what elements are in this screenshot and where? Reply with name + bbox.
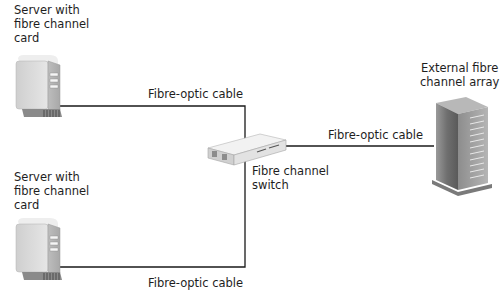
cable-label-switch-array: Fibre-optic cable — [328, 128, 423, 142]
storage-array-icon — [432, 97, 492, 196]
server-1-icon — [16, 55, 62, 117]
cable-label-server2-switch: Fibre-optic cable — [148, 276, 243, 290]
fibre-channel-switch-icon — [208, 134, 286, 165]
cable-server1-switch — [60, 106, 245, 140]
server-2-icon — [16, 218, 62, 280]
array-label: External fibre channel array — [420, 61, 499, 89]
server-2-label: Server with fibre channel card — [14, 170, 89, 212]
switch-label: Fibre channel switch — [252, 164, 329, 192]
diagram-canvas — [0, 0, 501, 300]
server-1-label: Server with fibre channel card — [14, 3, 89, 45]
cable-label-server1-switch: Fibre-optic cable — [148, 87, 243, 101]
